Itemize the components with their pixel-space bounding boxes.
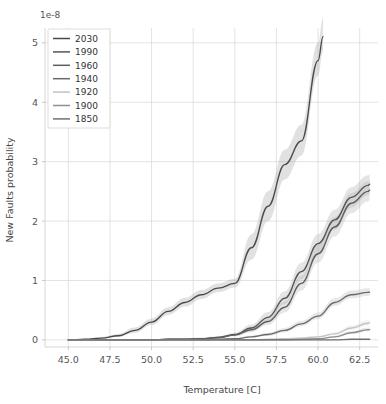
chart-figure: 45.047.550.052.555.057.560.062.5 012345 … [0, 0, 386, 404]
y-tick-label: 5 [32, 37, 38, 48]
x-tick-label: 60.0 [307, 354, 328, 365]
legend-label-2030[interactable]: 2030 [75, 34, 98, 44]
chart-legend[interactable]: 2030199019601940192019001850 [48, 29, 110, 128]
y-tick-label: 3 [32, 156, 38, 167]
x-tick-label: 55.0 [224, 354, 245, 365]
line-chart-canvas: 45.047.550.052.555.057.560.062.5 012345 … [0, 0, 386, 404]
legend-label-1920[interactable]: 1920 [75, 87, 98, 97]
x-axis-title: Temperature [C] [182, 384, 260, 395]
x-tick-label: 45.0 [58, 354, 79, 365]
y-axis-offset-label: 1e-8 [40, 10, 61, 20]
x-tick-label: 47.5 [99, 354, 120, 365]
y-tick-label: 4 [32, 97, 38, 108]
x-tick-label: 57.5 [266, 354, 287, 365]
x-tick-label: 50.0 [141, 354, 162, 365]
series-line-1850 [68, 339, 369, 340]
legend-label-1990[interactable]: 1990 [75, 47, 98, 57]
legend-label-1900[interactable]: 1900 [75, 101, 98, 111]
legend-label-1940[interactable]: 1940 [75, 74, 98, 84]
legend-label-1850[interactable]: 1850 [75, 114, 98, 124]
x-tick-label: 52.5 [183, 354, 204, 365]
x-tick-label: 62.5 [349, 354, 370, 365]
legend-label-1960[interactable]: 1960 [75, 61, 98, 71]
y-tick-label: 1 [32, 275, 38, 286]
y-tick-label: 0 [32, 334, 38, 345]
y-tick-label: 2 [32, 216, 38, 227]
y-axis-title: New Faults probability [4, 137, 15, 243]
